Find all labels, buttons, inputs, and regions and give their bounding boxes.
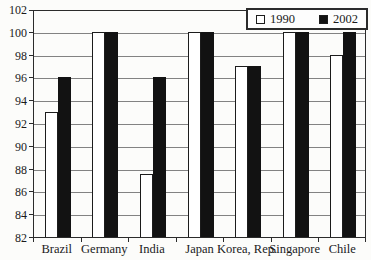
bar-1990-chile [330,55,343,237]
bar-chart-figure: 828486889092949698100102 BrazilGermanyIn… [0,0,371,260]
y-axis-label-90: 90 [0,141,27,153]
x-axis-tick-0 [33,238,34,242]
bar-2002-japan [201,32,214,237]
bar-2002-singapore [296,32,309,237]
y-axis-tick-92 [29,123,33,124]
y-axis-tick-94 [29,100,33,101]
bar-2002-brazil [58,77,71,237]
legend-label-2002: 2002 [333,13,358,25]
x-axis-tick-4 [223,238,224,242]
y-axis-tick-98 [29,55,33,56]
y-axis-label-84: 84 [0,209,27,221]
x-axis-tick-7 [365,238,366,242]
legend: 1990 2002 [246,8,368,30]
y-axis-tick-86 [29,191,33,192]
y-axis-tick-88 [29,169,33,170]
bar-1990-korea-rep [235,66,248,237]
y-axis-label-100: 100 [0,27,27,39]
legend-item-2002: 2002 [319,13,358,25]
bar-2002-india [153,77,166,237]
y-axis-label-92: 92 [0,118,27,130]
legend-swatch-2002-icon [319,15,328,24]
y-axis-label-82: 82 [0,232,27,244]
bar-2002-korea-rep [248,66,261,237]
legend-swatch-1990-icon [256,15,265,24]
x-axis-tick-1 [81,238,82,242]
x-axis-label-japan: Japan [185,242,213,256]
x-axis-label-germany: Germany [81,242,128,256]
x-axis-tick-5 [271,238,272,242]
x-axis-label-singapore: Singapore [269,242,320,256]
x-axis-label-korea-rep: Korea, Rep. [217,242,277,256]
x-axis-label-chile: Chile [329,242,356,256]
x-axis-tick-6 [318,238,319,242]
x-axis-label-india: India [139,242,165,256]
bar-1990-brazil [45,112,58,237]
bar-2002-chile [343,32,356,237]
bar-1990-india [140,174,153,237]
bar-1990-singapore [283,32,296,237]
x-axis-tick-2 [128,238,129,242]
y-axis-label-88: 88 [0,164,27,176]
bar-1990-germany [92,32,105,237]
x-axis-tick-3 [176,238,177,242]
y-axis-tick-84 [29,214,33,215]
y-axis-label-102: 102 [0,4,27,16]
y-axis-label-86: 86 [0,186,27,198]
y-axis-tick-90 [29,146,33,147]
y-axis-tick-102 [29,10,33,11]
y-axis-label-98: 98 [0,50,27,62]
plot-area [33,10,366,238]
bar-2002-germany [105,32,118,237]
bar-1990-japan [188,32,201,237]
y-axis-tick-100 [29,32,33,33]
legend-label-1990: 1990 [270,13,295,25]
y-axis-label-94: 94 [0,95,27,107]
y-axis-tick-96 [29,77,33,78]
x-axis-label-brazil: Brazil [42,242,73,256]
legend-item-1990: 1990 [256,13,295,25]
y-axis-label-96: 96 [0,72,27,84]
